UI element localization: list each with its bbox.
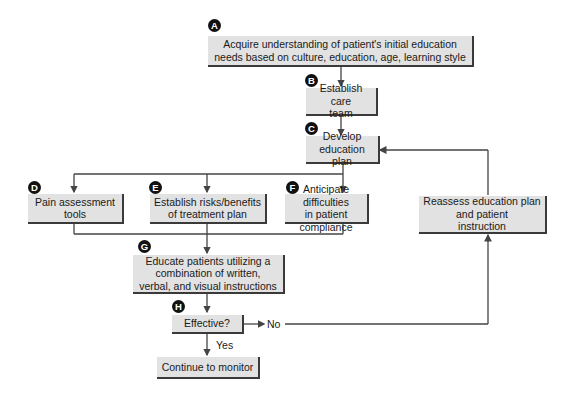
node-m-text: Continue to monitor: [162, 361, 254, 374]
badge-a: A: [208, 19, 221, 32]
badge-d: D: [28, 181, 41, 194]
node-b-text: Establish care team: [310, 82, 372, 120]
flowchart: A Acquire understanding of patient's ini…: [0, 0, 573, 396]
node-e-text: Establish risks/benefits of treatment pl…: [154, 196, 261, 221]
node-effective-decision: Effective?: [172, 315, 244, 334]
node-reassess-education-plan: Reassess education plan and patient inst…: [419, 196, 547, 234]
node-r-text: Reassess education plan and patient inst…: [423, 195, 540, 233]
edge-label-yes: Yes: [216, 339, 233, 351]
node-establish-care-team: Establish care team: [306, 88, 378, 116]
node-educate-patients: Educate patients utilizing a combination…: [133, 255, 285, 294]
node-h-text: Effective?: [184, 317, 230, 330]
badge-g: G: [138, 240, 151, 253]
node-continue-to-monitor: Continue to monitor: [157, 357, 260, 379]
node-establish-risks-benefits: Establish risks/benefits of treatment pl…: [150, 194, 267, 224]
node-f-text: Anticipate difficulties in patient compl…: [289, 183, 363, 233]
node-pain-assessment-tools: Pain assessment tools: [28, 194, 124, 224]
node-acquire-understanding: Acquire understanding of patient's initi…: [208, 36, 474, 67]
node-d-text: Pain assessment tools: [35, 196, 115, 221]
badge-e: E: [149, 181, 162, 194]
badge-h: H: [172, 300, 185, 313]
node-g-text: Educate patients utilizing a combination…: [139, 255, 277, 293]
node-anticipate-difficulties: Anticipate difficulties in patient compl…: [285, 194, 369, 224]
node-develop-education-plan: Develop education plan: [306, 136, 380, 164]
node-a-text: Acquire understanding of patient's initi…: [214, 38, 466, 63]
node-c-text: Develop education plan: [310, 130, 374, 168]
edge-label-no: No: [267, 318, 280, 330]
